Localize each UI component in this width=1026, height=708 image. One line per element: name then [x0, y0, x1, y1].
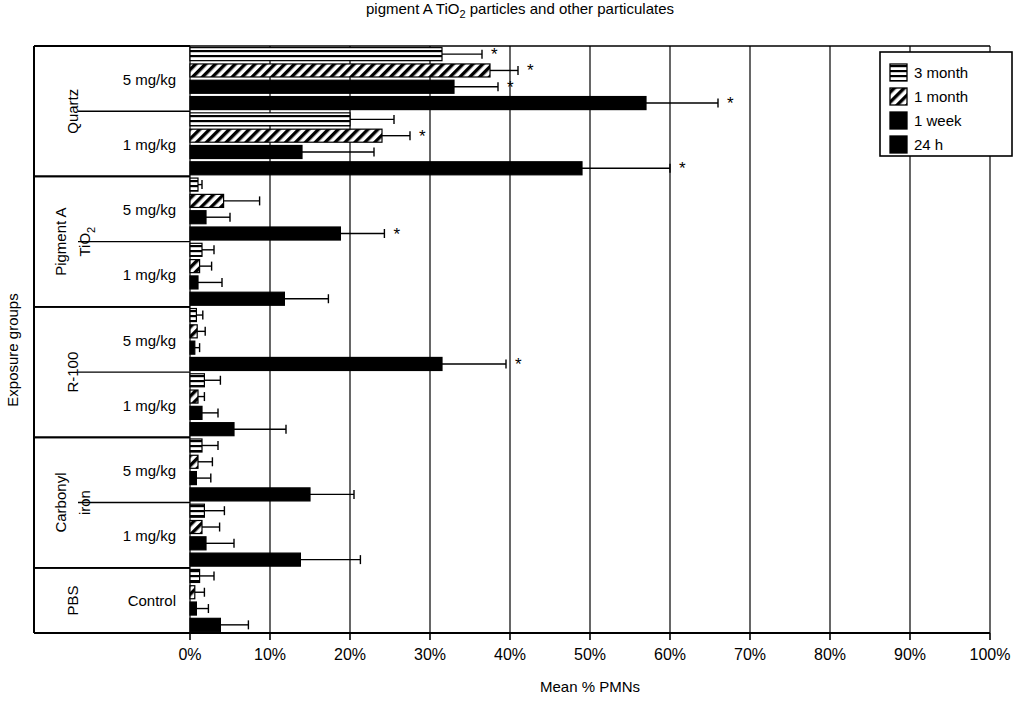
significance-marker: *	[679, 159, 686, 178]
bar	[190, 325, 197, 338]
legend-label: 3 month	[914, 64, 968, 81]
y-axis-title: Exposure groups	[4, 293, 21, 406]
bar	[190, 194, 224, 207]
bar	[190, 504, 204, 517]
bar	[190, 243, 202, 256]
bar	[190, 569, 200, 582]
y-axis-dose-label: 1 mg/kg	[123, 397, 176, 414]
bar	[190, 357, 442, 370]
x-axis-title: Mean % PMNs	[540, 678, 640, 695]
y-axis-dose-label: 1 mg/kg	[123, 527, 176, 544]
legend-label: 24 h	[914, 136, 943, 153]
bar	[190, 211, 206, 224]
bar	[190, 537, 206, 550]
x-tick-label: 50%	[574, 646, 606, 663]
bar	[190, 178, 198, 191]
y-axis-dose-label: 5 mg/kg	[123, 201, 176, 218]
bars-layer	[190, 48, 646, 632]
bar	[190, 586, 195, 599]
bar	[190, 423, 234, 436]
bar	[190, 309, 196, 322]
significance-marker: *	[727, 94, 734, 113]
bar	[190, 129, 382, 142]
x-tick-label: 60%	[654, 646, 686, 663]
x-tick-label: 0%	[178, 646, 201, 663]
bar	[190, 260, 200, 273]
bar	[190, 276, 198, 289]
legend-label: 1 month	[914, 88, 968, 105]
bar	[190, 374, 204, 387]
bar	[190, 341, 195, 354]
significance-marker: *	[393, 225, 400, 244]
chart-root: pigment A TiO2 particles and other parti…	[0, 0, 1026, 708]
y-axis-group-label: Carbonyl	[52, 473, 69, 533]
chart-canvas: ******** 0%10%20%30%40%50%60%70%80%90%10…	[0, 0, 1026, 708]
x-tick-label: 30%	[414, 646, 446, 663]
y-axis-dose-label: 5 mg/kg	[123, 462, 176, 479]
significance-marker: *	[507, 78, 514, 97]
x-tick-label: 10%	[254, 646, 286, 663]
bar	[190, 472, 196, 485]
bar	[190, 97, 646, 110]
bar	[190, 406, 202, 419]
y-axis-dose-label: 5 mg/kg	[123, 71, 176, 88]
significance-marker: *	[419, 127, 426, 146]
bar	[190, 292, 284, 305]
legend-swatch	[890, 88, 907, 105]
legend-swatch	[890, 112, 907, 129]
bar	[190, 48, 442, 61]
y-axis-group-label: Pigment A	[52, 207, 69, 275]
bar	[190, 455, 198, 468]
y-axis-dose-label: 1 mg/kg	[123, 136, 176, 153]
bar	[190, 80, 454, 93]
x-tick-label: 80%	[814, 646, 846, 663]
bar	[190, 602, 196, 615]
bar	[190, 64, 490, 77]
x-tick-label: 90%	[894, 646, 926, 663]
bar	[190, 162, 582, 175]
bar	[190, 553, 300, 566]
bar	[190, 227, 340, 240]
legend: 3 month1 month1 week24 h	[880, 52, 1012, 156]
significance-marker: *	[527, 61, 534, 80]
x-tick-label: 70%	[734, 646, 766, 663]
x-tick-label: 100%	[970, 646, 1011, 663]
y-axis-group-label: R-100	[64, 352, 81, 393]
legend-swatch	[890, 136, 907, 153]
bar	[190, 113, 350, 126]
legend-label: 1 week	[914, 112, 962, 129]
y-axis-group-label: Quartz	[64, 89, 81, 134]
x-axis-tick-labels: 0%10%20%30%40%50%60%70%80%90%100%	[178, 633, 1010, 663]
significance-marker: *	[515, 355, 522, 374]
bar	[190, 145, 302, 158]
bar	[190, 520, 202, 533]
y-axis-dose-label: Control	[128, 592, 176, 609]
bar	[190, 390, 198, 403]
y-axis-group-label-2: iron	[76, 490, 93, 515]
legend-swatch	[890, 64, 907, 81]
x-tick-label: 20%	[334, 646, 366, 663]
bar	[190, 439, 202, 452]
y-axis-category-labels: 5 mg/kg1 mg/kg5 mg/kg1 mg/kg5 mg/kg1 mg/…	[52, 71, 176, 616]
y-axis-dose-label: 5 mg/kg	[123, 332, 176, 349]
bar	[190, 618, 220, 631]
significance-markers-layer: ********	[393, 45, 734, 374]
x-tick-label: 40%	[494, 646, 526, 663]
y-axis-dose-label: 1 mg/kg	[123, 266, 176, 283]
y-axis-group-label: PBS	[64, 585, 81, 615]
bar	[190, 488, 310, 501]
significance-marker: *	[491, 45, 498, 64]
